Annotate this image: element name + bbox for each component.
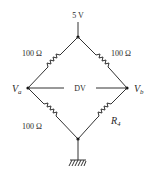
resistor-bottom-left (28, 88, 78, 139)
bridge-circuit-diagram: 5 V DV Va Vb 100 Ω 100 Ω 100 Ω R4 (0, 0, 152, 179)
supply-voltage-label: 5 V (72, 11, 84, 20)
resistor-top-left-label: 100 Ω (22, 49, 42, 58)
resistor-bottom-left-label: 100 Ω (22, 122, 42, 131)
ground-icon (69, 160, 86, 166)
va-label: Va (12, 83, 22, 96)
resistor-top-right-label: 100 Ω (111, 49, 131, 58)
resistor-top-right (78, 37, 127, 88)
dv-label: DV (74, 84, 86, 93)
resistor-r4-label: R4 (110, 115, 121, 128)
vb-label: Vb (134, 83, 144, 96)
resistor-top-left (28, 37, 78, 88)
resistor-r4 (78, 88, 127, 139)
